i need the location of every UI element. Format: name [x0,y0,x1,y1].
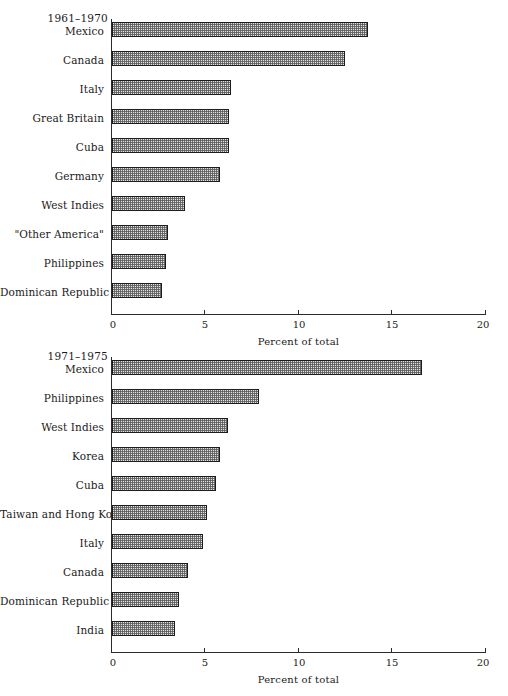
chart-1-xtick-0 [111,310,112,315]
chart-1-category-label-4: Cuba [0,141,104,153]
chart-2-xtick-3 [391,648,392,653]
table-row: West Indies [0,193,508,222]
table-row: Philippines [0,386,508,415]
chart-2-bar-6 [112,534,203,549]
chart-2-category-label-6: Italy [0,537,104,549]
chart-2-bar-rows: Mexico Philippines West Indies Korea Cub [0,357,508,647]
chart-1-category-label-2: Italy [0,83,104,95]
table-row: Mexico [0,19,508,48]
chart-2-bar-7 [112,563,188,578]
chart-2-category-label-5: Taiwan and Hong Kong [0,508,104,520]
table-row: Italy [0,77,508,106]
chart-1-bar-3 [112,109,229,124]
chart-1-bar-rows: Mexico Canada Italy Great Britain Cuba [0,19,508,309]
chart-2-xticklabel-3: 15 [386,657,399,668]
chart-2-xtick-2 [298,648,299,653]
chart-1-xticklabel-2: 10 [293,319,306,330]
chart-1-bar-1 [112,51,345,66]
chart-2-category-label-7: Canada [0,566,104,578]
chart-2-xtick-0 [111,648,112,653]
table-row: Cuba [0,135,508,164]
chart-2-bar-8 [112,592,179,607]
chart-2-category-label-1: Philippines [0,392,104,404]
chart-1-xtick-3 [391,310,392,315]
chart-1-category-label-0: Mexico [0,25,104,37]
chart-1-category-label-9: Dominican Republic [0,286,104,298]
table-row: Mexico [0,357,508,386]
chart-1-xtick-2 [298,310,299,315]
chart-2-category-label-4: Cuba [0,479,104,491]
chart-1-bar-0 [112,22,368,37]
chart-1-category-label-3: Great Britain [0,112,104,124]
table-row: India [0,618,508,647]
table-row: Cuba [0,473,508,502]
chart-1-category-label-6: West Indies [0,199,104,211]
chart-2-category-label-0: Mexico [0,363,104,375]
chart-1-bar-2 [112,80,231,95]
chart-2-category-label-3: Korea [0,450,104,462]
table-row: Germany [0,164,508,193]
chart-1-bar-8 [112,254,166,269]
table-row: "Other America" [0,222,508,251]
chart-2-xticklabel-4: 20 [477,657,490,668]
chart-2-bar-5 [112,505,207,520]
chart-1-xticklabel-1: 5 [202,319,208,330]
chart-2-bar-2 [112,418,228,433]
chart-1-category-label-7: "Other America" [0,228,104,240]
chart-1-xtick-1 [204,310,205,315]
chart-1-bar-6 [112,196,185,211]
chart-2-xticklabel-1: 5 [202,657,208,668]
table-row: Great Britain [0,106,508,135]
chart-1971-1975: 1971–1975 Mexico Philippines West Indies… [0,338,508,696]
chart-1-xtick-4 [485,310,486,315]
chart-1-bar-7 [112,225,168,240]
chart-1-bar-5 [112,167,220,182]
chart-2-xticklabel-2: 10 [293,657,306,668]
table-row: Dominican Republic [0,280,508,309]
chart-2-category-label-9: India [0,624,104,636]
chart-2-xtick-4 [485,648,486,653]
chart-1-category-label-8: Philippines [0,257,104,269]
chart-2-bar-4 [112,476,216,491]
chart-2-bar-3 [112,447,220,462]
chart-1-category-label-5: Germany [0,170,104,182]
chart-2-x-axis-title: Percent of total [111,674,486,685]
table-row: Canada [0,560,508,589]
chart-2-bar-0 [112,360,422,375]
chart-1-xticklabel-4: 20 [477,319,490,330]
chart-2-xticklabel-0: 0 [110,657,116,668]
chart-1-category-label-1: Canada [0,54,104,66]
table-row: West Indies [0,415,508,444]
table-row: Italy [0,531,508,560]
chart-1-xticklabel-3: 15 [386,319,399,330]
chart-1961-1970: 1961–1970 Mexico Canada Italy Great Brit… [0,0,508,348]
chart-2-category-label-8: Dominican Republic [0,595,104,607]
table-row: Philippines [0,251,508,280]
chart-2-category-label-2: West Indies [0,421,104,433]
chart-1-bar-4 [112,138,229,153]
chart-2-x-axis: 0 5 10 15 20 Percent of total [0,652,508,692]
figure-page: 1961–1970 Mexico Canada Italy Great Brit… [0,0,508,696]
chart-1-bar-9 [112,283,162,298]
table-row: Taiwan and Hong Kong [0,502,508,531]
table-row: Canada [0,48,508,77]
chart-2-bar-9 [112,621,175,636]
chart-2-xtick-1 [204,648,205,653]
table-row: Korea [0,444,508,473]
chart-2-bar-1 [112,389,259,404]
table-row: Dominican Republic [0,589,508,618]
chart-1-xticklabel-0: 0 [110,319,116,330]
